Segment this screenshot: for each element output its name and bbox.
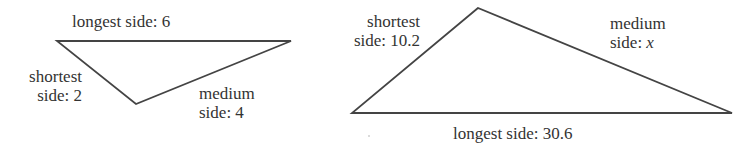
- small-longest-side-label: longest side: 6: [72, 12, 170, 31]
- small-medium-line2: side: 4: [199, 103, 255, 122]
- small-medium-side-label: medium side: 4: [199, 84, 255, 122]
- large-medium-prefix: side:: [610, 33, 646, 52]
- variable-x: x: [646, 33, 654, 52]
- large-medium-line2: side: x: [610, 33, 666, 52]
- large-longest-side-text: longest side: 30.6: [453, 124, 572, 143]
- small-shortest-side-label: shortest side: 2: [14, 67, 82, 105]
- scan-artifact: [368, 135, 370, 137]
- small-shortest-line2: side: 2: [14, 86, 82, 105]
- large-medium-line1: medium: [610, 14, 666, 33]
- large-shortest-line2: side: 10.2: [330, 31, 420, 50]
- small-medium-line1: medium: [199, 84, 255, 103]
- large-medium-side-label: medium side: x: [610, 14, 666, 52]
- small-shortest-line1: shortest: [14, 67, 82, 86]
- large-shortest-side-label: shortest side: 10.2: [330, 12, 420, 50]
- large-shortest-line1: shortest: [330, 12, 420, 31]
- small-longest-side-text: longest side: 6: [72, 12, 170, 31]
- large-longest-side-label: longest side: 30.6: [453, 124, 572, 143]
- small-triangle: [57, 41, 291, 104]
